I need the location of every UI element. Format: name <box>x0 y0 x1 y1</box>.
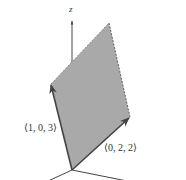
x-axis <box>46 170 72 180</box>
y-axis <box>72 170 132 180</box>
diagram-canvas: z ⟨1, 0, 3⟩ ⟨0, 2, 2⟩ <box>0 0 186 180</box>
vector-b-label: ⟨0, 2, 2⟩ <box>104 142 137 153</box>
z-axis-label: z <box>69 4 73 14</box>
vector-a-label: ⟨1, 0, 3⟩ <box>24 122 57 133</box>
diagram-svg <box>0 0 186 180</box>
